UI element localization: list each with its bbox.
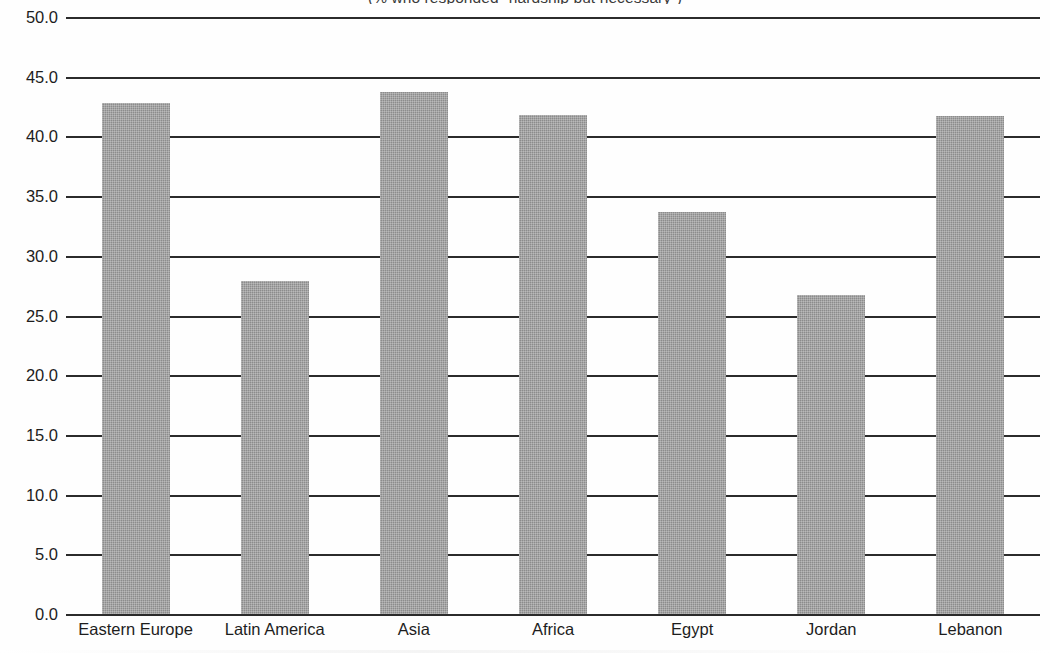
x-axis-tick-label: Latin America <box>225 620 325 639</box>
x-axis-labels: Eastern EuropeLatin AmericaAsiaAfricaEgy… <box>66 620 1040 650</box>
bar <box>380 92 448 614</box>
bar <box>102 103 170 614</box>
x-axis-tick-label: Lebanon <box>938 620 1002 639</box>
y-axis-tick-label: 35.0 <box>2 187 58 206</box>
bar-series <box>66 17 1040 614</box>
y-axis-tick-label: 45.0 <box>2 67 58 86</box>
bar-chart-figure: (% who responded "hardship but necessary… <box>0 0 1050 653</box>
x-axis-tick-label: Egypt <box>671 620 713 639</box>
bar <box>658 212 726 614</box>
bar <box>797 295 865 614</box>
y-axis-tick-label: 50.0 <box>2 8 58 27</box>
x-axis-tick-label: Jordan <box>806 620 856 639</box>
x-axis-tick-label: Asia <box>398 620 430 639</box>
y-axis-tick-label: 0.0 <box>2 605 58 624</box>
y-axis-tick-label: 5.0 <box>2 545 58 564</box>
bar <box>519 115 587 614</box>
x-axis-tick-label: Africa <box>532 620 574 639</box>
y-axis-tick-label: 20.0 <box>2 366 58 385</box>
y-axis-tick-label: 15.0 <box>2 425 58 444</box>
y-axis-tick-label: 40.0 <box>2 127 58 146</box>
bar <box>936 116 1004 614</box>
chart-subtitle: (% who responded "hardship but necessary… <box>0 0 1050 4</box>
y-axis-tick-label: 30.0 <box>2 246 58 265</box>
axis-baseline <box>66 614 1040 616</box>
x-axis-tick-label: Eastern Europe <box>78 620 193 639</box>
y-axis-tick-label: 25.0 <box>2 306 58 325</box>
bar <box>241 281 309 614</box>
y-axis-tick-label: 10.0 <box>2 485 58 504</box>
